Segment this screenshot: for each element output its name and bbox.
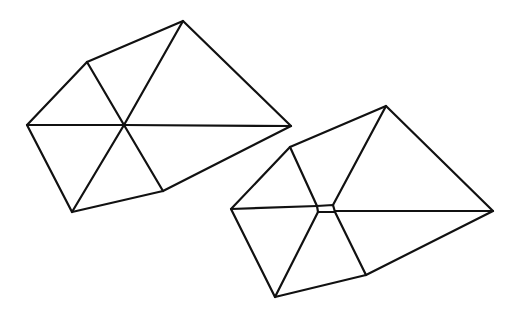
diagram-canvas <box>0 0 521 321</box>
polygon-left <box>27 21 291 212</box>
interior-edge <box>231 206 317 209</box>
interior-edge <box>335 212 366 275</box>
interior-edge <box>124 125 163 191</box>
interior-edge <box>87 62 124 125</box>
center-quad <box>317 205 335 212</box>
interior-edge <box>124 125 291 126</box>
interior-edge <box>124 21 183 125</box>
interior-edge <box>333 106 386 205</box>
interior-edge <box>290 147 317 206</box>
interior-edge <box>72 125 124 212</box>
polygon-right <box>231 106 493 297</box>
diagram-svg <box>0 0 521 321</box>
interior-edge <box>275 212 318 297</box>
